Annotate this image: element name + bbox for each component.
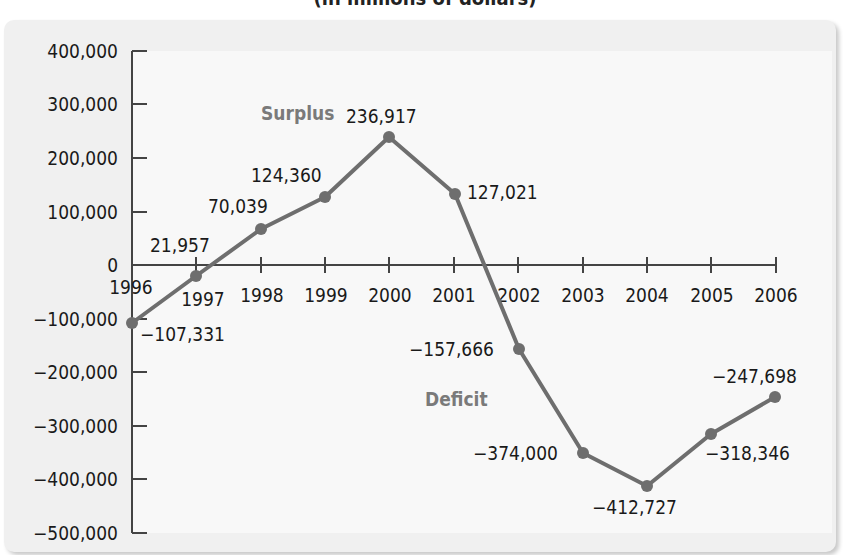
svg-text:300,000: 300,000 — [47, 93, 118, 115]
svg-text:−100,000: −100,000 — [33, 308, 118, 330]
svg-text:0: 0 — [107, 254, 118, 276]
svg-text:124,360: 124,360 — [251, 164, 322, 186]
svg-text:21,957: 21,957 — [150, 234, 210, 256]
svg-text:1996: 1996 — [109, 276, 153, 298]
svg-text:200,000: 200,000 — [47, 147, 118, 169]
data-labels: −107,331 21,957 70,039 124,360 236,917 1… — [140, 105, 797, 518]
data-point-1996 — [126, 317, 138, 329]
svg-text:−157,666: −157,666 — [409, 338, 494, 360]
data-point-2001 — [449, 188, 461, 200]
svg-text:2004: 2004 — [625, 284, 669, 306]
data-point-2006 — [769, 391, 781, 403]
svg-text:−200,000: −200,000 — [33, 361, 118, 383]
svg-text:1997: 1997 — [181, 288, 225, 310]
svg-text:236,917: 236,917 — [346, 105, 417, 127]
svg-text:−400,000: −400,000 — [33, 468, 118, 490]
surplus-annotation: Surplus — [261, 102, 334, 124]
data-point-2005 — [705, 428, 717, 440]
svg-text:2000: 2000 — [368, 284, 412, 306]
line-chart: 400,000 300,000 200,000 100,000 0 −100,0… — [0, 0, 850, 555]
data-points — [126, 131, 781, 492]
svg-text:−107,331: −107,331 — [140, 323, 225, 345]
data-point-2003 — [577, 447, 589, 459]
svg-text:−318,346: −318,346 — [705, 442, 790, 464]
svg-text:−374,000: −374,000 — [473, 442, 558, 464]
deficit-annotation: Deficit — [425, 388, 488, 410]
svg-text:2001: 2001 — [432, 284, 476, 306]
svg-text:−300,000: −300,000 — [33, 415, 118, 437]
svg-text:2002: 2002 — [497, 284, 541, 306]
svg-text:127,021: 127,021 — [467, 181, 538, 203]
y-tick-labels: 400,000 300,000 200,000 100,000 0 −100,0… — [33, 40, 118, 544]
x-tick-labels: 1996 1997 1998 1999 2000 2001 2002 2003 … — [109, 276, 798, 310]
svg-text:−247,698: −247,698 — [712, 365, 797, 387]
data-point-2002 — [513, 343, 525, 355]
svg-text:70,039: 70,039 — [208, 195, 268, 217]
data-point-2004 — [641, 480, 653, 492]
data-point-1998 — [255, 223, 267, 235]
svg-text:2006: 2006 — [754, 284, 798, 306]
svg-text:2005: 2005 — [690, 284, 734, 306]
svg-text:−500,000: −500,000 — [33, 522, 118, 544]
svg-text:100,000: 100,000 — [47, 201, 118, 223]
svg-text:1998: 1998 — [240, 284, 284, 306]
svg-text:400,000: 400,000 — [47, 40, 118, 62]
svg-text:2003: 2003 — [561, 284, 605, 306]
data-point-2000 — [383, 131, 395, 143]
data-point-1999 — [319, 191, 331, 203]
data-point-1997 — [190, 270, 202, 282]
svg-text:1999: 1999 — [304, 284, 348, 306]
svg-text:−412,727: −412,727 — [592, 496, 677, 518]
